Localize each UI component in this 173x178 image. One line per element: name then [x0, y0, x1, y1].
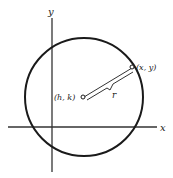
center-point — [81, 95, 85, 99]
center-label: (h, k) — [54, 93, 75, 102]
circle-diagram: x y r (h, k) (x, y) — [0, 0, 173, 178]
radius-brace — [87, 72, 133, 100]
point-label: (x, y) — [136, 63, 156, 72]
radius-label: r — [112, 90, 117, 100]
y-axis-label: y — [47, 6, 54, 17]
x-axis-label: x — [160, 122, 166, 133]
radius-line — [84, 68, 132, 97]
circle-point — [130, 65, 134, 69]
